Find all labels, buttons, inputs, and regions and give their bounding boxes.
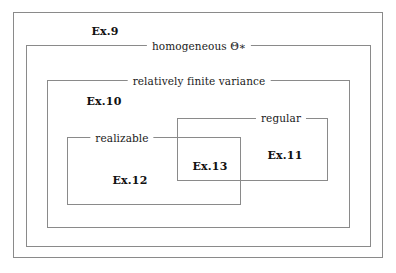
- example-label-ex13: Ex.13: [192, 161, 227, 172]
- example-label-ex11: Ex.11: [267, 150, 302, 161]
- example-label-ex12: Ex.12: [112, 175, 147, 186]
- example-label-ex10: Ex.10: [86, 96, 121, 107]
- edge-label-relatively-finite-variance: relatively finite variance: [128, 76, 271, 87]
- edge-label-regular: regular: [256, 113, 306, 124]
- diagram-canvas: homogeneous Θ∗ relatively finite varianc…: [0, 0, 396, 273]
- edge-label-realizable: realizable: [90, 133, 153, 144]
- edge-label-homogeneous: homogeneous Θ∗: [147, 41, 251, 52]
- example-label-ex9: Ex.9: [91, 26, 118, 37]
